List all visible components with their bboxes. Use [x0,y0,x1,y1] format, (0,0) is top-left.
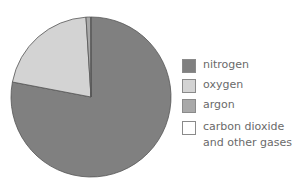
legend-label-line1: carbon dioxide [203,120,292,134]
legend-swatch-oxygen [182,79,196,93]
legend-swatch-argon [182,99,196,113]
legend-label: argon [203,98,235,112]
legend-label: oxygen [203,78,243,92]
legend-label: nitrogen [203,58,249,72]
legend-swatch-carbon-dioxide [182,121,196,135]
pie-chart [0,0,292,186]
legend-label-line2: and other gases [203,136,292,150]
pie-slice-carbon [91,17,92,97]
legend-swatch-nitrogen [182,59,196,73]
legend-label: carbon dioxide and other gases [203,120,292,150]
